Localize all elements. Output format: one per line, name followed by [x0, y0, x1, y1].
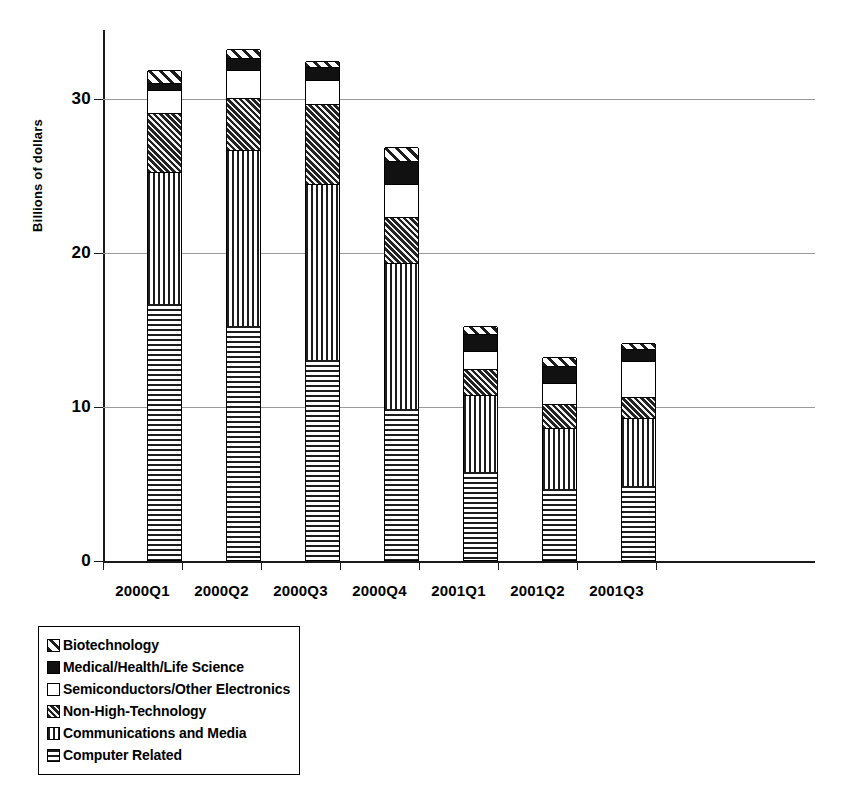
- bar-segment: [622, 343, 655, 349]
- bar-segment: [306, 104, 339, 184]
- legend-label: Computer Related: [63, 747, 182, 763]
- bar-segment: [148, 113, 181, 172]
- legend-item[interactable]: Biotechnology: [47, 634, 291, 656]
- bar-segment: [464, 369, 497, 395]
- y-axis-title: Billions of dollars: [30, 12, 45, 232]
- bar-segment: [622, 486, 655, 560]
- legend-swatch-icon: [47, 661, 60, 674]
- y-tick-20: [94, 253, 103, 254]
- legend-item[interactable]: Medical/Health/Life Science: [47, 656, 291, 678]
- bar-segment: [148, 90, 181, 113]
- y-tick-label-30: 30: [71, 89, 91, 109]
- x-tick: [103, 563, 104, 570]
- legend-item[interactable]: Communications and Media: [47, 722, 291, 744]
- x-tick: [340, 563, 341, 570]
- x-axis-line: [103, 561, 815, 563]
- legend-label: Medical/Health/Life Science: [63, 659, 244, 675]
- legend-swatch-icon: [47, 705, 60, 718]
- x-tick-label-2001q2: 2001Q2: [498, 582, 577, 599]
- bar-segment: [464, 351, 497, 369]
- gridline-10: [103, 407, 815, 408]
- chart-legend: BiotechnologyMedical/Health/Life Science…: [38, 626, 300, 775]
- legend-swatch-icon: [47, 683, 60, 696]
- bar-segment: [543, 404, 576, 427]
- gridline-20: [103, 253, 815, 254]
- bar-segment: [543, 428, 576, 490]
- bar-segment: [622, 349, 655, 361]
- bar-segment: [622, 361, 655, 396]
- y-tick-label-0: 0: [81, 551, 91, 571]
- legend-item[interactable]: Non-High-Technology: [47, 700, 291, 722]
- legend-label: Semiconductors/Other Electronics: [63, 681, 290, 697]
- bar-segment: [227, 150, 260, 326]
- legend-item[interactable]: Semiconductors/Other Electronics: [47, 678, 291, 700]
- stacked-bar[interactable]: [226, 50, 261, 561]
- legend-swatch-icon: [47, 749, 60, 762]
- x-tick: [498, 563, 499, 570]
- bar-segment: [622, 397, 655, 419]
- bar-segment: [306, 80, 339, 105]
- gridline-30: [103, 99, 815, 100]
- x-tick-label-2001q1: 2001Q1: [419, 582, 498, 599]
- x-tick: [656, 563, 657, 570]
- legend-label: Non-High-Technology: [63, 703, 206, 719]
- bar-segment: [464, 472, 497, 560]
- bar-segment: [385, 217, 418, 263]
- bar-segment: [464, 395, 497, 472]
- legend-swatch-icon: [47, 639, 60, 652]
- y-tick-label-10: 10: [71, 397, 91, 417]
- x-tick: [182, 563, 183, 570]
- bar-segment: [543, 383, 576, 405]
- bar-segment: [306, 61, 339, 67]
- x-tick-label-2001q3: 2001Q3: [577, 582, 656, 599]
- bar-segment: [306, 67, 339, 79]
- bar-segment: [385, 147, 418, 161]
- stacked-bar-chart: Billions of dollars 0102030 2000Q12000Q2…: [0, 0, 844, 620]
- bar-segment: [306, 360, 339, 560]
- bar-segment: [148, 70, 181, 82]
- legend-label: Biotechnology: [63, 637, 159, 653]
- legend-label: Communications and Media: [63, 725, 247, 741]
- y-axis-line: [103, 30, 105, 563]
- bar-segment: [464, 326, 497, 334]
- plot-area: 0102030 2000Q12000Q22000Q32000Q42001Q120…: [103, 30, 815, 563]
- y-tick-0: [94, 561, 103, 562]
- bar-segment: [148, 83, 181, 91]
- bar-segment: [227, 49, 260, 58]
- x-tick-label-2000q4: 2000Q4: [340, 582, 419, 599]
- x-tick: [577, 563, 578, 570]
- bar-segment: [385, 409, 418, 560]
- bar-segment: [464, 334, 497, 351]
- bar-segment: [227, 326, 260, 560]
- x-tick: [261, 563, 262, 570]
- bar-segment: [227, 58, 260, 70]
- y-tick-10: [94, 407, 103, 408]
- legend-item[interactable]: Computer Related: [47, 744, 291, 766]
- stacked-bar[interactable]: [147, 71, 182, 561]
- stacked-bar[interactable]: [463, 327, 498, 561]
- stacked-bar[interactable]: [621, 344, 656, 561]
- bar-segment: [385, 184, 418, 216]
- bar-segment: [227, 98, 260, 150]
- bar-segment: [148, 304, 181, 560]
- bar-segment: [385, 161, 418, 184]
- legend-swatch-icon: [47, 727, 60, 740]
- bar-segment: [543, 357, 576, 366]
- x-tick-label-2000q2: 2000Q2: [182, 582, 261, 599]
- stacked-bar[interactable]: [305, 62, 340, 561]
- stacked-bar[interactable]: [384, 148, 419, 561]
- bar-segment: [148, 172, 181, 304]
- bar-segment: [622, 418, 655, 486]
- x-tick-label-2000q3: 2000Q3: [261, 582, 340, 599]
- x-tick: [419, 563, 420, 570]
- y-tick-label-20: 20: [71, 243, 91, 263]
- stacked-bar[interactable]: [542, 358, 577, 561]
- bar-segment: [227, 70, 260, 98]
- bar-segment: [385, 263, 418, 409]
- bar-segment: [306, 184, 339, 360]
- y-tick-30: [94, 99, 103, 100]
- bar-segment: [543, 489, 576, 560]
- bar-segment: [543, 366, 576, 383]
- x-tick-label-2000q1: 2000Q1: [103, 582, 182, 599]
